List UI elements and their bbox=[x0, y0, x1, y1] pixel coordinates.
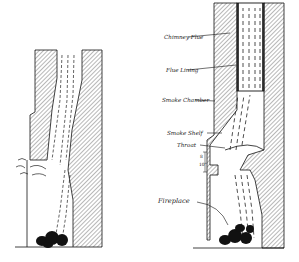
label-chimney-flue: Chimney Flue bbox=[164, 34, 204, 41]
left-back-wall bbox=[68, 50, 102, 247]
label-throat: Throat bbox=[177, 142, 197, 148]
label-flue-lining: Flue Lining bbox=[165, 67, 199, 74]
left-front-wall bbox=[30, 50, 57, 160]
svg-text:10": 10" bbox=[199, 162, 207, 167]
right-logs bbox=[219, 224, 254, 245]
label-smoke-chamber: Smoke Chamber bbox=[162, 97, 209, 103]
svg-text:8: 8 bbox=[200, 154, 203, 159]
label-fireplace: Fireplace bbox=[157, 197, 190, 205]
fireplace-diagram: Chimney Flue Flue Lining Smoke Chamber S… bbox=[0, 0, 299, 262]
right-diagram: Chimney Flue Flue Lining Smoke Chamber S… bbox=[157, 3, 284, 248]
label-smoke-shelf: Smoke Shelf bbox=[167, 130, 204, 137]
throat-dimension: 8 10" bbox=[199, 152, 207, 172]
left-smoke-spill bbox=[16, 159, 46, 177]
left-diagram bbox=[15, 50, 102, 248]
left-logs bbox=[36, 231, 68, 248]
right-front-wall bbox=[207, 3, 237, 240]
